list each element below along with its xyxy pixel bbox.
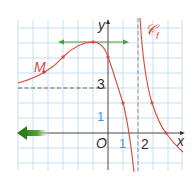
y-axis-arrow-icon xyxy=(106,19,110,24)
x-tick-label-2: 2 xyxy=(141,137,149,151)
curve-marked-points xyxy=(61,40,168,135)
y-tick-label-3: 3 xyxy=(97,77,105,91)
left-limit-arrow-icon xyxy=(17,126,50,140)
origin-label: O xyxy=(96,136,107,150)
curve-label-name: 𝒞 xyxy=(145,21,156,38)
curve-label-subscript: f xyxy=(156,31,159,41)
point-m-label: M xyxy=(34,60,46,74)
x-tick-label-1: 1 xyxy=(119,137,126,150)
x-axis-label: x xyxy=(177,134,184,148)
y-axis-label: y xyxy=(98,18,105,32)
y-tick-label-1: 1 xyxy=(97,110,104,123)
curve-label: 𝒞f xyxy=(145,22,159,41)
